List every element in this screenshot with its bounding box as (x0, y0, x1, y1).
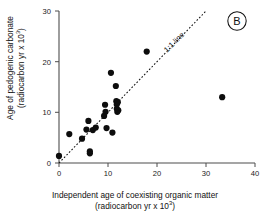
panel-label-b: B (228, 12, 246, 30)
scatter-point (109, 130, 115, 136)
x-tick-label: 40 (251, 169, 259, 178)
y-tick-label: 0 (47, 159, 51, 168)
y-axis-units-exponent: 3 (15, 31, 21, 34)
scatter-point (113, 83, 119, 89)
scatter-point (103, 125, 109, 131)
scatter-point (144, 48, 150, 54)
x-axis-tick-labels: 0 10 20 30 40 (57, 169, 259, 178)
y-axis-units-pre: (radiocarbon yr x 10 (16, 34, 26, 108)
one-to-one-line-label: 1:1 line (162, 30, 186, 54)
scatter-point (115, 107, 121, 113)
x-axis-units-post: ) (172, 201, 175, 211)
y-axis-ticks (55, 11, 59, 163)
scatter-point (87, 150, 93, 156)
y-tick-label: 20 (43, 58, 51, 67)
y-axis-tick-labels: 0 10 20 30 (43, 7, 51, 168)
y-axis-title-line2: (radiocarbon yr x 103) (16, 0, 27, 148)
scatter-point (102, 109, 108, 115)
scatter-point (85, 118, 91, 124)
x-tick-label: 0 (57, 169, 61, 178)
scatter-point (102, 102, 108, 108)
x-axis-title-line1: Independent age of coexisting organic ma… (52, 190, 218, 200)
scatter-point (108, 70, 114, 76)
scatter-point (79, 136, 85, 142)
y-axis-title: Age of pedogenic carbonate (radiocarbon … (5, 0, 26, 148)
scatter-point (93, 124, 99, 130)
y-axis-title-line1: Age of pedogenic carbonate (5, 16, 15, 120)
x-tick-label: 10 (104, 169, 112, 178)
x-tick-label: 20 (153, 169, 161, 178)
scatter-plot: 0 10 20 30 0 10 20 30 40 1:1 line B (0, 0, 270, 220)
x-tick-label: 30 (202, 169, 210, 178)
scatter-point (56, 153, 62, 159)
x-axis-title: Independent age of coexisting organic ma… (0, 190, 270, 211)
x-axis-units-pre: (radiocarbon yr x 10 (95, 201, 169, 211)
x-axis-title-line2: (radiocarbon yr x 103) (0, 201, 270, 212)
y-axis-title-wrapper: Age of pedogenic carbonate (radiocarbon … (5, 0, 31, 148)
y-axis-units-post: ) (16, 28, 26, 31)
scatter-point (66, 131, 72, 137)
scatter-point (115, 99, 121, 105)
y-tick-label: 30 (43, 7, 51, 16)
figure-panel-b: 0 10 20 30 0 10 20 30 40 1:1 line B (0, 0, 270, 220)
panel-letter-text: B (233, 15, 240, 27)
scatter-points-layer (56, 48, 225, 159)
scatter-point (83, 126, 89, 132)
y-tick-label: 10 (43, 108, 51, 117)
x-axis-ticks (59, 163, 255, 167)
scatter-point (219, 94, 225, 100)
